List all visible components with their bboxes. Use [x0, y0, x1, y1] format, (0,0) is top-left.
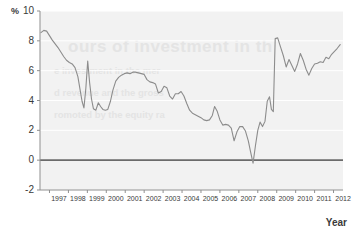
- x-axis-title: Year: [326, 217, 347, 228]
- y-tick-label: 8: [12, 35, 34, 46]
- y-tick-label: 6: [12, 65, 34, 76]
- data-series: [41, 30, 340, 163]
- axis-ticks: [37, 11, 334, 193]
- y-tick-label: 2: [12, 124, 34, 135]
- y-tick-label: 10: [12, 5, 34, 16]
- x-tick-label: 2012: [332, 195, 354, 202]
- y-tick-label: -2: [12, 184, 34, 195]
- y-tick-label: 4: [12, 95, 34, 106]
- gridlines: [40, 11, 343, 190]
- y-tick-label: 0: [12, 154, 34, 165]
